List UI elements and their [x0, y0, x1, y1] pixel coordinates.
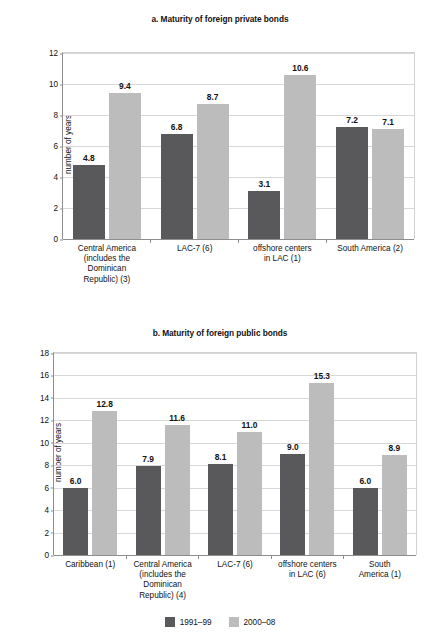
bar: 15.3 — [309, 383, 334, 555]
bar: 11.0 — [237, 432, 262, 555]
bar-value-label: 6.0 — [70, 476, 82, 486]
y-axis-tick-label: 8 — [44, 461, 54, 470]
legend-item: 2000–08 — [229, 617, 276, 627]
y-axis-tick-label: 10 — [40, 438, 54, 447]
category-label-line: Dominican — [118, 580, 206, 590]
figure-legend: 1991–992000–08 — [0, 617, 440, 627]
category-label-line: South — [336, 560, 424, 570]
bar-group: 6.08.9SouthAmerica (1) — [344, 353, 416, 555]
bar-group: 3.110.6offshore centersin LAC (1) — [239, 53, 327, 239]
chart-panel-a: a. Maturity of foreign private bonds num… — [0, 14, 440, 314]
y-axis-tick-label: 4 — [53, 173, 63, 182]
legend-swatch — [229, 617, 239, 627]
category-label-line: Dominican — [55, 264, 159, 274]
y-axis-tick-label: 4 — [44, 506, 54, 515]
x-axis-tick — [198, 555, 199, 559]
bar: 11.6 — [165, 425, 190, 555]
bar-value-label: 15.3 — [314, 371, 330, 381]
bar-value-label: 4.8 — [83, 153, 95, 163]
bar-value-label: 8.9 — [388, 443, 400, 453]
bar-value-label: 12.8 — [97, 399, 113, 409]
x-axis-tick — [326, 239, 327, 243]
y-axis-tick-label: 6 — [53, 142, 63, 151]
chart-panel-b: b. Maturity of foreign public bonds numb… — [0, 328, 440, 610]
bar-group: 6.012.8Caribbean (1) — [54, 353, 126, 555]
category-label-line: in LAC (1) — [231, 254, 335, 264]
bar: 7.1 — [372, 129, 404, 239]
x-axis-category-label: South America (2) — [318, 244, 422, 254]
bar: 4.8 — [73, 165, 105, 239]
legend-label: 2000–08 — [244, 618, 276, 627]
y-axis-tick-label: 8 — [53, 111, 63, 120]
category-label-line: (includes the — [55, 254, 159, 264]
bar-value-label: 3.1 — [259, 179, 271, 189]
y-axis-tick-label: 12 — [49, 49, 63, 58]
bar: 9.0 — [280, 454, 305, 555]
bar-value-label: 9.0 — [287, 442, 299, 452]
chart-b-title: b. Maturity of foreign public bonds — [0, 328, 440, 338]
y-axis-tick-label: 2 — [53, 204, 63, 213]
bar-group: 7.27.1South America (2) — [326, 53, 414, 239]
legend-label: 1991–99 — [180, 618, 212, 627]
bar-value-label: 6.0 — [359, 476, 371, 486]
bar-value-label: 10.6 — [292, 63, 308, 73]
bar-value-label: 8.1 — [215, 452, 227, 462]
bar-value-label: 11.0 — [242, 420, 258, 430]
bar: 6.0 — [353, 488, 378, 555]
category-label-line: South America (2) — [318, 244, 422, 254]
bar-group: 6.88.7LAC-7 (6) — [151, 53, 239, 239]
bar: 7.9 — [136, 466, 161, 555]
chart-a-title: a. Maturity of foreign private bonds — [0, 14, 440, 24]
bar-value-label: 7.2 — [346, 115, 358, 125]
y-axis-tick-label: 2 — [44, 528, 54, 537]
bar: 6.8 — [161, 134, 193, 239]
bar: 9.4 — [109, 93, 141, 239]
category-label-line: Republic) (3) — [55, 275, 159, 285]
y-axis-tick-label: 0 — [53, 235, 63, 244]
x-axis-tick — [150, 239, 151, 243]
category-label-line: America (1) — [336, 570, 424, 580]
bond-maturity-figure: a. Maturity of foreign private bonds num… — [0, 0, 440, 639]
bar: 12.8 — [92, 411, 117, 555]
legend-swatch — [165, 617, 175, 627]
x-axis-tick — [126, 555, 127, 559]
chart-b-plot-area: number of years 024681012141618 6.012.8C… — [53, 352, 417, 555]
y-axis-tick-label: 18 — [40, 349, 54, 358]
category-label-line: Republic) (4) — [118, 591, 206, 601]
bar-value-label: 7.1 — [382, 117, 394, 127]
bar-value-label: 9.4 — [119, 81, 131, 91]
bar: 8.1 — [208, 464, 233, 555]
bar: 7.2 — [336, 127, 368, 239]
x-axis-tick — [238, 239, 239, 243]
bar-value-label: 8.7 — [207, 92, 219, 102]
bar: 8.7 — [197, 104, 229, 239]
chart-a-plot-area: number of years 024681012 4.89.4Central … — [62, 52, 415, 239]
bar-group: 4.89.4Central America(includes theDomini… — [63, 53, 151, 239]
bar: 8.9 — [382, 455, 407, 555]
y-axis-tick-label: 10 — [49, 80, 63, 89]
bar-group: 8.111.0LAC-7 (6) — [199, 353, 271, 555]
bar-group: 9.015.3offshore centersin LAC (6) — [271, 353, 343, 555]
bar: 3.1 — [248, 191, 280, 239]
y-axis-tick-label: 14 — [40, 393, 54, 402]
bar: 6.0 — [63, 488, 88, 555]
y-axis-tick-label: 12 — [40, 416, 54, 425]
legend-item: 1991–99 — [165, 617, 212, 627]
category-label-line: (includes the — [118, 570, 206, 580]
bar-group: 7.911.6Central America(includes theDomin… — [126, 353, 198, 555]
x-axis-category-label: SouthAmerica (1) — [336, 560, 424, 580]
x-axis-tick — [271, 555, 272, 559]
bar-value-label: 11.6 — [169, 413, 185, 423]
y-axis-tick-label: 16 — [40, 371, 54, 380]
y-axis-tick-label: 6 — [44, 483, 54, 492]
y-axis-tick-label: 0 — [44, 551, 54, 560]
bar: 10.6 — [284, 75, 316, 239]
bar-value-label: 7.9 — [142, 454, 154, 464]
x-axis-tick — [343, 555, 344, 559]
chart-b-x-axis-line — [54, 555, 416, 556]
bar-value-label: 6.8 — [171, 122, 183, 132]
